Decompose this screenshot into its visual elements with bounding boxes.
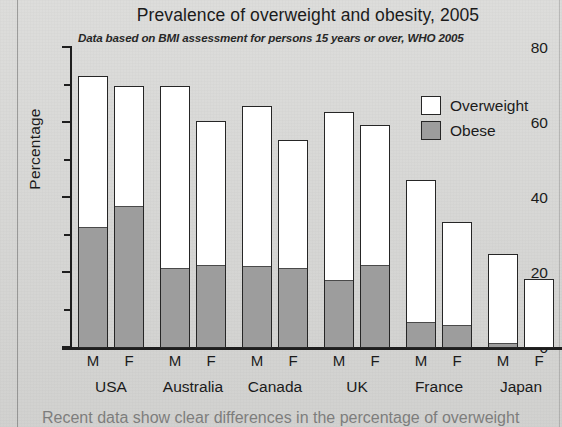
- chart-subtitle: Data based on BMI assessment for persons…: [78, 31, 464, 44]
- bar-france-m: [406, 180, 436, 348]
- y-tick-40: [62, 196, 71, 198]
- bar-obese-segment: [279, 268, 307, 347]
- y-tick-60: [62, 121, 71, 123]
- bar-obese-segment: [361, 265, 389, 348]
- sex-label-uk-f: F: [370, 352, 379, 369]
- bar-japan-f: [524, 279, 554, 348]
- y-axis-label: Percentage: [26, 79, 44, 219]
- bar-obese-segment: [197, 265, 225, 348]
- sex-label-japan-m: M: [497, 352, 510, 369]
- bar-obese-segment: [243, 266, 271, 347]
- country-label-uk: UK: [346, 378, 368, 396]
- legend-item-obese: Obese: [421, 118, 528, 143]
- chart-page: Prevalence of overweight and obesity, 20…: [0, 0, 562, 427]
- bar-uk-m: [324, 112, 354, 348]
- y-tick-10: [64, 309, 71, 311]
- country-label-france: France: [415, 378, 463, 396]
- bar-australia-m: [160, 86, 190, 349]
- country-label-usa: USA: [95, 378, 127, 396]
- bar-obese-segment: [407, 322, 435, 348]
- bar-obese-segment: [325, 280, 353, 348]
- sex-label-usa-m: M: [87, 352, 100, 369]
- y-tick-50: [64, 159, 71, 161]
- sex-label-usa-f: F: [124, 352, 133, 369]
- bar-obese-segment: [115, 206, 143, 347]
- bar-obese-segment: [161, 268, 189, 347]
- y-tick-label-60: 60: [531, 114, 548, 132]
- bar-france-f: [442, 222, 472, 348]
- y-tick-label-80: 80: [531, 39, 548, 57]
- bar-uk-f: [360, 125, 390, 348]
- sex-label-australia-m: M: [169, 352, 182, 369]
- figure-caption-text: Recent data show clear differences in th…: [42, 409, 562, 427]
- legend-label-obese: Obese: [450, 122, 496, 140]
- sex-label-france-f: F: [452, 352, 461, 369]
- sex-label-france-m: M: [415, 352, 428, 369]
- bar-canada-m: [242, 106, 272, 348]
- page-left-rule: [17, 0, 18, 427]
- sex-label-canada-f: F: [288, 352, 297, 369]
- country-label-canada: Canada: [248, 378, 302, 396]
- legend-item-overweight: Overweight: [421, 93, 528, 118]
- legend-label-overweight: Overweight: [450, 97, 528, 115]
- bar-obese-segment: [489, 343, 517, 348]
- chart-legend: OverweightObese: [421, 93, 528, 143]
- chart-title: Prevalence of overweight and obesity, 20…: [60, 5, 556, 26]
- y-tick-80: [62, 46, 71, 48]
- y-tick-30: [64, 234, 71, 236]
- y-tick-0: [62, 346, 71, 348]
- sex-label-australia-f: F: [206, 352, 215, 369]
- bar-japan-m: [488, 254, 518, 348]
- sex-label-canada-m: M: [251, 352, 264, 369]
- sex-label-uk-m: M: [333, 352, 346, 369]
- bar-australia-f: [196, 121, 226, 348]
- bar-usa-m: [78, 76, 108, 348]
- bar-canada-f: [278, 140, 308, 348]
- bar-obese-segment: [79, 227, 107, 347]
- y-tick-label-40: 40: [531, 189, 548, 207]
- bar-obese-segment: [443, 325, 471, 348]
- country-label-australia: Australia: [163, 378, 223, 396]
- y-tick-70: [64, 84, 71, 86]
- country-label-japan: Japan: [500, 378, 542, 396]
- y-tick-20: [62, 271, 71, 273]
- figure-caption: Recent data show clear differences in th…: [42, 409, 562, 427]
- legend-swatch-obese: [421, 121, 441, 140]
- legend-swatch-overweight: [421, 96, 441, 115]
- sex-label-japan-f: F: [534, 352, 543, 369]
- bar-usa-f: [114, 86, 144, 349]
